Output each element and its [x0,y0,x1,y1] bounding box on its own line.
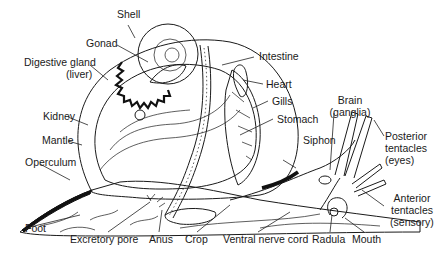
label-mantle: Mantle [42,134,74,146]
label-anterior-tentacles: Anterior [383,192,441,204]
digestive-gland-shape [150,65,186,83]
label-brain: Brain [330,94,370,106]
ventral-nerve-cord-shape [180,214,320,228]
label-brain-sub: (ganglia) [323,106,377,118]
label-posterior-tentacles-sub: (eyes) [385,154,414,166]
gills-stomach-region [225,65,260,185]
label-anterior-tentacles-2: tentacles [383,204,441,216]
head-shape [230,112,386,218]
label-digestive-gland: Digestive gland [24,56,96,68]
anus-fringe [147,194,165,207]
snail-anatomy-drawing [0,0,445,254]
label-anterior-tentacles-sub: (sensory) [383,216,441,228]
label-ventral-nerve-cord: Ventral nerve cord [223,233,308,245]
label-mouth: Mouth [352,233,381,245]
label-anus: Anus [149,233,173,245]
label-crop: Crop [185,233,208,245]
label-gills: Gills [272,95,292,107]
label-posterior-tentacles-2: tentacles [385,142,427,154]
label-heart: Heart [266,78,292,90]
label-kidney: Kidney [43,110,75,122]
label-radula: Radula [312,233,345,245]
label-stomach: Stomach [277,113,318,125]
label-siphon: Siphon [303,134,336,146]
crop-shape [165,208,216,224]
label-operculum: Operculum [25,156,76,168]
label-foot: Foot [25,222,46,234]
label-gonad: Gonad [86,37,118,49]
label-shell: Shell [117,8,140,20]
label-intestine: Intestine [259,50,299,62]
label-posterior-tentacles: Posterior [385,130,427,142]
label-excretory-pore: Excretory pore [70,233,138,245]
label-digestive-gland-sub: (liver) [66,68,92,80]
